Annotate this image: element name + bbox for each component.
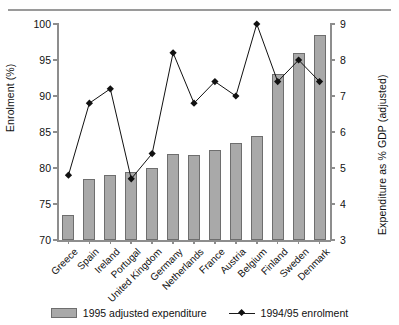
y-axis-right-title: Expenditure as % GDP (adjusted)	[376, 75, 388, 236]
y-axis-right-tick-label: 6	[340, 126, 346, 138]
x-axis-tick	[130, 240, 132, 244]
y-axis-right-tick	[330, 239, 335, 241]
y-axis-left-tick-label: 95	[39, 54, 51, 66]
x-axis-tick	[151, 240, 153, 244]
y-axis-left-tick	[53, 131, 58, 133]
y-axis-left-tick	[53, 95, 58, 97]
plot-area	[58, 24, 330, 240]
y-axis-left-tick-label: 90	[39, 90, 51, 102]
x-axis-tick	[256, 240, 258, 244]
y-axis-left-tick-label: 70	[39, 234, 51, 246]
y-axis-right-tick	[330, 131, 335, 133]
x-axis-tick	[89, 240, 91, 244]
legend-item-expenditure: 1995 adjusted expenditure	[51, 307, 207, 319]
data-point-marker	[86, 100, 93, 107]
y-axis-left-tick-label: 85	[39, 126, 51, 138]
legend-item-enrolment: 1994/95 enrolment	[229, 307, 349, 319]
y-axis-right-tick	[330, 23, 335, 25]
y-axis-right-tick-label: 9	[340, 18, 346, 30]
legend-label-expenditure: 1995 adjusted expenditure	[83, 307, 207, 319]
y-axis-left-title: Enrolment (%)	[4, 64, 16, 132]
y-axis-right-tick	[330, 59, 335, 61]
data-point-marker	[107, 85, 114, 92]
y-axis-right-tick-label: 4	[340, 198, 346, 210]
chart-legend: 1995 adjusted expenditure 1994/95 enrolm…	[0, 303, 399, 323]
data-point-marker	[253, 20, 260, 27]
data-point-marker	[232, 92, 239, 99]
y-axis-right-tick-label: 3	[340, 234, 346, 246]
x-axis-tick	[193, 240, 195, 244]
line-diamond-marker-icon	[229, 308, 255, 318]
y-axis-right-tick	[330, 203, 335, 205]
y-axis-right-tick-label: 8	[340, 54, 346, 66]
data-point-marker	[169, 49, 176, 56]
x-axis-tick	[172, 240, 174, 244]
x-axis-tick	[277, 240, 279, 244]
y-axis-left-tick	[53, 167, 58, 169]
x-axis-tick	[298, 240, 300, 244]
x-axis-tick	[110, 240, 112, 244]
y-axis-left-tick	[53, 203, 58, 205]
y-axis-right-tick	[330, 95, 335, 97]
y-axis-left-tick-label: 75	[39, 198, 51, 210]
x-axis-tick	[235, 240, 237, 244]
line-series-1994-95-enrolment	[58, 24, 330, 240]
y-axis-left-tick-label: 80	[39, 162, 51, 174]
data-point-marker	[65, 172, 72, 179]
legend-label-enrolment: 1994/95 enrolment	[261, 307, 349, 319]
y-axis-right-tick	[330, 167, 335, 169]
x-axis-tick	[214, 240, 216, 244]
y-axis-left-tick	[53, 239, 58, 241]
y-axis-left-tick-label: 100	[33, 18, 51, 30]
y-axis-left-tick	[53, 23, 58, 25]
top-divider-rule	[8, 9, 391, 11]
chart-figure: Enrolment (%) Expenditure as % GDP (adju…	[0, 0, 399, 325]
bar-swatch-icon	[51, 308, 77, 318]
y-axis-left-tick	[53, 59, 58, 61]
x-axis-labels: GreeceSpainIrelandPortugalUnited Kingdom…	[58, 246, 348, 306]
x-axis-tick	[68, 240, 70, 244]
x-axis-tick	[319, 240, 321, 244]
y-axis-right-tick-label: 7	[340, 90, 346, 102]
y-axis-right-tick-label: 5	[340, 162, 346, 174]
